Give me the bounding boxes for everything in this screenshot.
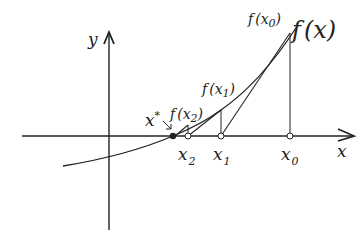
y-axis-label: y: [87, 29, 98, 49]
x-axis-label: x: [337, 141, 347, 161]
x1-point: [218, 133, 224, 139]
f-x0-label: f(x0): [247, 11, 281, 30]
root-pointer-arrow-icon: [163, 121, 171, 129]
f-x2-label: f(x2): [169, 106, 203, 125]
root-point: [170, 133, 176, 139]
root-label: x*: [145, 109, 161, 130]
x1-label: x1: [213, 144, 231, 168]
x2-label: x2: [178, 144, 196, 168]
curve-label: f(x): [290, 16, 336, 44]
f-x1-label: f(x1): [201, 81, 235, 100]
x0-label: x0: [281, 144, 299, 168]
x0-point: [287, 133, 293, 139]
x2-point: [185, 133, 191, 139]
y-axis: [104, 32, 114, 230]
x-axis-arrow-icon: [338, 129, 354, 141]
newton-method-diagram: y x x* x2 x1 x0 f(x2) f(x1) f(x0) f(x): [0, 0, 364, 245]
